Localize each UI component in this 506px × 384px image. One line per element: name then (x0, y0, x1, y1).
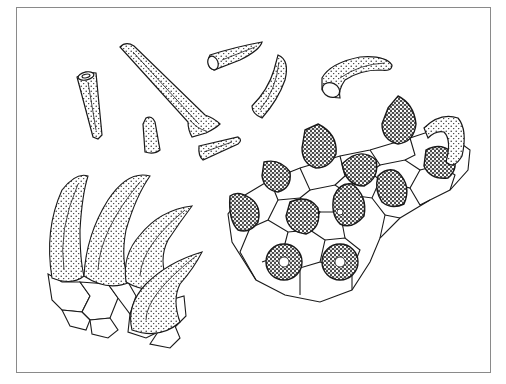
open-ended-hair (206, 42, 262, 71)
illustration (0, 0, 506, 384)
glandular-hairs (230, 96, 456, 280)
isolated-hairs (77, 42, 392, 160)
long-hair-fragment (120, 44, 220, 137)
glandular-hair (230, 193, 259, 231)
hollow-hair-fragment (77, 70, 102, 139)
curved-hollow-hair (320, 57, 392, 100)
glandular-hair (333, 184, 365, 226)
glandular-hair (377, 170, 407, 207)
glandular-hair (342, 154, 377, 186)
epidermis (228, 96, 470, 302)
short-hair-fragment (199, 137, 241, 160)
small-cone-hair (143, 117, 160, 153)
glandular-hair (382, 96, 416, 144)
glandular-hair (302, 124, 336, 168)
curved-hair-fragment (252, 55, 286, 118)
glandular-hair (262, 161, 290, 192)
hair-cluster (48, 175, 202, 348)
glandular-hair (286, 199, 319, 234)
